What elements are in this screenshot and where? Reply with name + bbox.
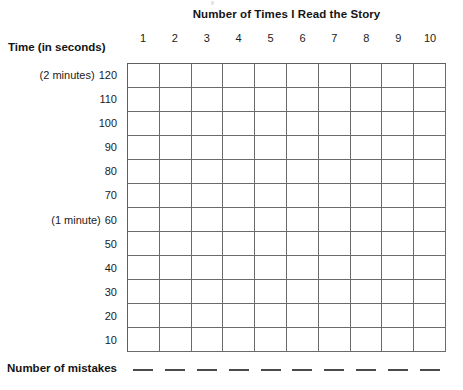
mistakes-blank-slot[interactable] [382,362,414,378]
grid-cell[interactable] [287,112,319,135]
grid-cell[interactable] [414,208,446,231]
grid-cell[interactable] [382,184,414,207]
grid-cell[interactable] [160,208,192,231]
grid-cell[interactable] [160,328,192,351]
grid-cell[interactable] [414,160,446,183]
grid-cell[interactable] [192,184,224,207]
grid-cell[interactable] [128,304,160,327]
grid-cell[interactable] [382,256,414,279]
grid-cell[interactable] [351,280,383,303]
grid-cell[interactable] [351,328,383,351]
grid-cell[interactable] [351,184,383,207]
grid-cell[interactable] [414,232,446,255]
grid-cell[interactable] [319,304,351,327]
grid-cell[interactable] [287,304,319,327]
grid-cell[interactable] [414,304,446,327]
grid-cell[interactable] [255,304,287,327]
grid-cell[interactable] [128,88,160,111]
grid-cell[interactable] [160,136,192,159]
grid-cell[interactable] [255,88,287,111]
grid-cell[interactable] [319,328,351,351]
grid-cell[interactable] [319,112,351,135]
grid-cell[interactable] [255,280,287,303]
grid-cell[interactable] [223,232,255,255]
grid-cell[interactable] [223,88,255,111]
grid-cell[interactable] [223,328,255,351]
grid-cell[interactable] [223,256,255,279]
grid-cell[interactable] [319,232,351,255]
grid-cell[interactable] [223,304,255,327]
grid-cell[interactable] [287,280,319,303]
grid-cell[interactable] [223,136,255,159]
grid-cell[interactable] [192,256,224,279]
grid-cell[interactable] [382,136,414,159]
grid-cell[interactable] [414,256,446,279]
grid-cell[interactable] [255,256,287,279]
grid-cell[interactable] [287,184,319,207]
mistakes-blank-slot[interactable] [255,362,287,378]
grid-cell[interactable] [160,304,192,327]
grid-cell[interactable] [351,136,383,159]
grid-cell[interactable] [128,184,160,207]
mistakes-blank-slot[interactable] [350,362,382,378]
grid-cell[interactable] [255,184,287,207]
mistakes-blank-slot[interactable] [159,362,191,378]
grid-cell[interactable] [414,88,446,111]
grid-cell[interactable] [351,112,383,135]
grid-cell[interactable] [160,88,192,111]
grid-cell[interactable] [351,208,383,231]
grid-cell[interactable] [414,328,446,351]
grid-cell[interactable] [319,184,351,207]
grid-cell[interactable] [382,304,414,327]
grid-cell[interactable] [255,136,287,159]
grid-cell[interactable] [287,160,319,183]
grid-cell[interactable] [128,136,160,159]
grid-cell[interactable] [128,232,160,255]
grid-cell[interactable] [382,232,414,255]
grid-cell[interactable] [128,112,160,135]
mistakes-blank-slot[interactable] [191,362,223,378]
grid-cell[interactable] [128,280,160,303]
grid-cell[interactable] [160,64,192,87]
grid-cell[interactable] [287,136,319,159]
grid-cell[interactable] [351,232,383,255]
grid-cell[interactable] [414,280,446,303]
grid-cell[interactable] [414,136,446,159]
grid-cell[interactable] [414,64,446,87]
grid-cell[interactable] [223,64,255,87]
grid-cell[interactable] [128,208,160,231]
grid-cell[interactable] [287,88,319,111]
grid-cell[interactable] [255,208,287,231]
grid-cell[interactable] [382,328,414,351]
grid-cell[interactable] [160,160,192,183]
grid-cell[interactable] [287,208,319,231]
grid-cell[interactable] [287,256,319,279]
grid-cell[interactable] [223,184,255,207]
grid-cell[interactable] [255,64,287,87]
grid-cell[interactable] [192,64,224,87]
grid-cell[interactable] [128,328,160,351]
grid-cell[interactable] [160,112,192,135]
grid-cell[interactable] [255,160,287,183]
grid-cell[interactable] [223,280,255,303]
grid-cell[interactable] [351,160,383,183]
grid-cell[interactable] [351,88,383,111]
grid-cell[interactable] [160,280,192,303]
grid-cell[interactable] [287,64,319,87]
grid-cell[interactable] [287,232,319,255]
grid-cell[interactable] [223,112,255,135]
grid-cell[interactable] [319,256,351,279]
grid-cell[interactable] [319,280,351,303]
grid-cell[interactable] [351,256,383,279]
mistakes-blank-slot[interactable] [414,362,446,378]
grid-cell[interactable] [414,184,446,207]
grid-cell[interactable] [160,232,192,255]
grid-cell[interactable] [319,88,351,111]
grid-cell[interactable] [128,160,160,183]
data-grid[interactable] [127,63,446,352]
grid-cell[interactable] [382,160,414,183]
grid-cell[interactable] [351,64,383,87]
grid-cell[interactable] [382,208,414,231]
grid-cell[interactable] [382,112,414,135]
grid-cell[interactable] [319,136,351,159]
